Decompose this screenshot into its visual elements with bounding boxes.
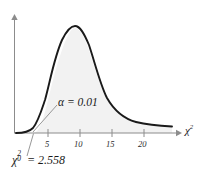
critical-value-annotation: χ20 = 2.558 bbox=[12, 152, 65, 166]
x-axis-arrowhead bbox=[176, 130, 182, 136]
critical-value-equals: = bbox=[27, 153, 35, 167]
critical-value-number: 2.558 bbox=[38, 153, 65, 167]
y-axis-arrowhead bbox=[11, 14, 17, 20]
x-axis-label-exponent: 2 bbox=[190, 123, 193, 130]
shaded-rejection-area bbox=[33, 28, 172, 133]
x-tick-label-5: 5 bbox=[45, 140, 49, 149]
alpha-annotation: α = 0.01 bbox=[58, 97, 98, 109]
x-axis-label: χ2 bbox=[185, 124, 193, 136]
x-tick-label-20: 20 bbox=[138, 140, 147, 149]
critical-value-subscript: 0 bbox=[17, 155, 21, 162]
chi-square-figure: 5 10 15 20 χ2 α = 0.01 χ20 = 2.558 bbox=[0, 0, 203, 182]
critical-value-script-stack: 20 bbox=[17, 152, 24, 164]
x-tick-label-15: 15 bbox=[106, 140, 115, 149]
x-tick-label-10: 10 bbox=[74, 140, 83, 149]
